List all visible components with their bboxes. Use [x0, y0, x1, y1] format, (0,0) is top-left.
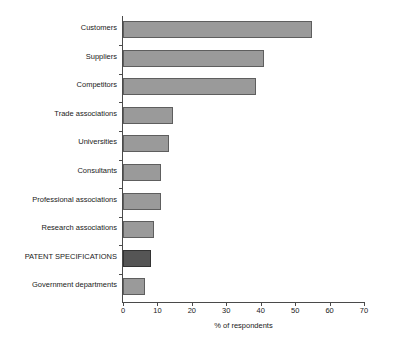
category-label: Competitors — [0, 80, 117, 90]
value-tick-label: 20 — [180, 306, 204, 316]
category-axis-line — [122, 302, 365, 303]
value-tick-label: 10 — [145, 306, 169, 316]
category-tick — [119, 131, 123, 132]
category-label: Customers — [0, 23, 117, 33]
bar — [123, 78, 256, 95]
category-label: Trade associations — [0, 109, 117, 119]
value-tick-label: 0 — [111, 306, 135, 316]
category-label: Research associations — [0, 223, 117, 233]
category-label: Government departments — [0, 280, 117, 290]
bar-row: Universities — [0, 130, 397, 158]
bar-row: Professional associations — [0, 188, 397, 216]
category-tick — [119, 274, 123, 275]
category-tick — [119, 74, 123, 75]
category-label: Professional associations — [0, 195, 117, 205]
category-label: Universities — [0, 137, 117, 147]
value-tick-label: 70 — [352, 306, 376, 316]
bar-chart-figure: CustomersSuppliersCompetitorsTrade assoc… — [0, 0, 397, 346]
bar-row: Consultants — [0, 159, 397, 187]
category-tick — [119, 160, 123, 161]
bar — [123, 135, 169, 152]
bar-row: Customers — [0, 16, 397, 44]
value-tick-label: 40 — [249, 306, 273, 316]
value-tick-label: 50 — [283, 306, 307, 316]
category-label: Suppliers — [0, 52, 117, 62]
category-tick — [119, 245, 123, 246]
category-label: Consultants — [0, 166, 117, 176]
bar — [123, 21, 312, 38]
bar-row: Research associations — [0, 216, 397, 244]
category-label: PATENT SPECIFICATIONS — [0, 252, 117, 262]
bar — [123, 250, 151, 267]
bar — [123, 107, 173, 124]
bar-row: Suppliers — [0, 45, 397, 73]
category-tick — [119, 45, 123, 46]
category-tick — [119, 188, 123, 189]
bar — [123, 50, 264, 67]
bar-row: Trade associations — [0, 102, 397, 130]
bar — [123, 278, 145, 295]
bar — [123, 164, 161, 181]
category-tick — [119, 217, 123, 218]
bar — [123, 193, 161, 210]
bar-row: Government departments — [0, 273, 397, 301]
bar-row: PATENT SPECIFICATIONS — [0, 245, 397, 273]
x-axis-title: % of respondents — [123, 321, 364, 331]
category-tick — [119, 102, 123, 103]
value-tick-label: 30 — [214, 306, 238, 316]
value-tick-label: 60 — [318, 306, 342, 316]
bar-row: Competitors — [0, 73, 397, 101]
bar — [123, 221, 154, 238]
